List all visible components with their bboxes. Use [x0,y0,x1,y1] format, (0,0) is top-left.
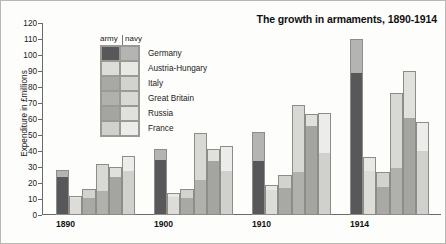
legend-row-austria-hungary[interactable] [101,61,139,76]
bar-1900-austria-hungary[interactable] [167,193,180,215]
bar-1910-great-britain[interactable] [292,105,305,215]
segment-navy [208,150,219,161]
segment-army [279,188,290,214]
segment-army [110,177,121,214]
y-tick-label: 50 [28,131,37,140]
segment-navy [70,197,81,198]
legend-label-russia: Russia [148,108,173,117]
legend-swatch-army [101,61,120,76]
x-label-1900: 1900 [154,219,173,229]
legend-row-great-britain[interactable] [101,91,139,106]
segment-army [168,197,179,214]
legend-swatch-army [101,121,120,136]
bar-1910-germany[interactable] [252,132,265,215]
legend-row-italy[interactable] [101,76,139,91]
segment-army [155,160,166,214]
bar-1890-russia[interactable] [109,167,122,215]
legend-swatch-navy [120,106,139,121]
legend-swatch-navy [120,76,139,91]
y-tick [38,39,42,40]
bar-1890-great-britain[interactable] [96,164,109,215]
segment-navy [279,176,290,188]
y-tick [38,87,42,88]
bar-1910-france[interactable] [318,113,331,215]
segment-navy [123,157,134,171]
bar-1890-germany[interactable] [56,170,69,215]
bar-1900-france[interactable] [220,146,233,215]
segment-army [195,180,206,214]
y-tick-label: 110 [24,35,37,44]
legend-row-germany[interactable] [101,46,139,61]
segment-navy [319,114,330,153]
segment-army [253,161,264,214]
y-tick [38,151,42,152]
segment-army [208,161,219,214]
legend-row-russia[interactable] [101,106,139,121]
legend-swatch-navy [120,121,139,136]
y-tick-label: 0 [32,211,37,220]
segment-army [266,190,277,214]
bar-1900-germany[interactable] [154,149,167,215]
y-tick-label: 70 [28,99,37,108]
segment-army [97,191,108,214]
segment-navy [155,150,166,159]
y-tick [38,183,42,184]
legend-swatch-table [100,45,140,137]
y-tick [38,135,42,136]
bar-1910-russia[interactable] [305,114,318,215]
legend-label-austria-hungary: Austria-Hungary [148,63,207,72]
bar-1914-germany[interactable] [350,39,363,215]
bar-1910-italy[interactable] [278,175,291,215]
segment-navy [83,190,94,197]
bar-1914-great-britain[interactable] [390,93,403,215]
legend-swatch-army [101,76,120,91]
legend-swatch-navy [120,91,139,106]
segment-army [404,118,415,214]
bar-group-1914 [350,23,433,215]
legend-row-france[interactable] [101,121,139,136]
y-tick-label: 10 [28,195,37,204]
segment-navy [168,194,179,197]
y-tick [38,23,42,24]
plot-area: 0102030405060708090100110120 18901900191… [42,23,441,215]
y-tick [38,71,42,72]
legend-swatch-army [101,106,120,121]
bar-1890-austria-hungary[interactable] [69,196,82,215]
segment-army [417,151,428,214]
y-tick [38,55,42,56]
bar-1914-russia[interactable] [403,71,416,215]
segment-navy [97,165,108,191]
segment-navy [57,171,68,177]
x-label-1914: 1914 [350,219,369,229]
y-axis-line [42,23,43,215]
segment-army [377,187,388,214]
y-tick-label: 120 [23,19,37,28]
x-label-1910: 1910 [252,219,271,229]
bar-1900-italy[interactable] [180,189,193,215]
legend-label-germany: Germany [148,48,182,57]
bar-1910-austria-hungary[interactable] [265,185,278,215]
bar-1914-austria-hungary[interactable] [363,157,376,215]
segment-army [319,153,330,214]
y-tick-label: 20 [28,179,37,188]
segment-army [293,172,304,214]
chart-container: The growth in armaments, 1890-1914 Expen… [0,0,446,244]
legend-header-navy: navy [125,34,142,43]
legend-label-france: France [148,123,173,132]
bar-1890-italy[interactable] [82,189,95,215]
y-tick-label: 30 [28,163,37,172]
segment-navy [364,158,375,170]
segment-navy [181,190,192,197]
segment-navy [293,106,304,172]
segment-navy [417,123,428,151]
y-tick-label: 90 [28,67,37,76]
bar-1900-russia[interactable] [207,149,220,215]
y-tick [38,167,42,168]
bar-1914-italy[interactable] [376,172,389,215]
bar-1890-france[interactable] [122,156,135,215]
segment-navy [266,186,277,190]
bar-1914-france[interactable] [416,122,429,215]
bar-1900-great-britain[interactable] [194,133,207,215]
segment-army [221,171,232,214]
segment-army [391,168,402,214]
